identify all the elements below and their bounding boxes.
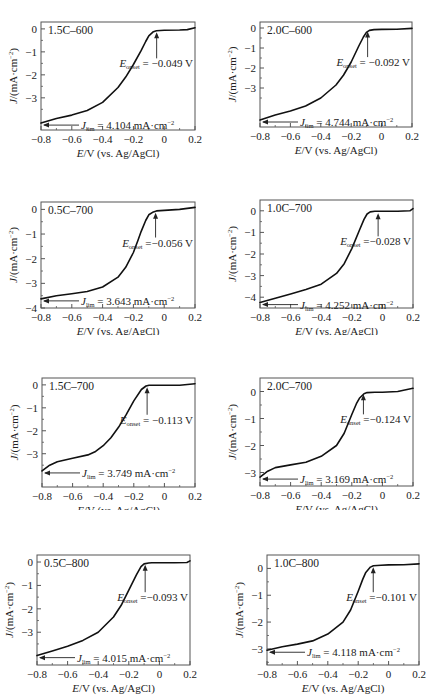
x-tick-label: −0.4 (311, 311, 331, 323)
onset-potential-label: Eonset =−0.101 V (345, 591, 417, 604)
x-tick-label: 0.2 (406, 489, 420, 501)
jlim-arrow (44, 470, 80, 475)
y-tick-label: −1 (21, 579, 33, 591)
onset-arrow (145, 387, 150, 414)
y-tick-label: −3 (251, 643, 263, 655)
y-tick-label: 0 (33, 379, 39, 391)
x-axis-label: E/V (vs. Ag/AgCl) (71, 682, 155, 695)
onset-arrow (361, 394, 366, 414)
y-tick-label: 0 (32, 203, 38, 215)
y-tick-label: −4 (25, 302, 37, 314)
x-tick-label: −0.8 (250, 130, 270, 142)
x-tick-label: −0.6 (62, 311, 82, 323)
x-tick-label: 0.2 (188, 133, 202, 145)
limiting-current-label: Jlim = 3.749 mA·cm−2 (82, 467, 175, 480)
onset-arrow (143, 565, 148, 592)
limiting-current-label: Jlim = 3.169 mA·cm−2 (300, 473, 393, 486)
x-tick-label: −0.2 (342, 311, 362, 323)
x-tick-label: 0.2 (183, 668, 197, 680)
x-tick-label: −0.2 (123, 133, 143, 145)
y-tick-label: −3 (25, 92, 37, 104)
plot-svg: −0.8−0.6−0.4−0.200.20−1−2−32.0C–700Eonse… (219, 340, 438, 510)
lsv-curve (260, 388, 413, 477)
onset-potential-label: Eonset = −0.049 V (118, 57, 193, 70)
y-axis-label: J/(mA·cm−2) (226, 404, 239, 460)
panel-label: 1.5C–700 (49, 380, 94, 392)
lsv-panel-1-0c-800: −0.8−0.6−0.4−0.200.20−1−2−31.0C–800Eonse… (219, 520, 438, 695)
x-tick-label: −0.8 (257, 668, 277, 680)
x-tick-label: −0.2 (119, 668, 139, 680)
y-tick-label: −1 (244, 42, 256, 54)
x-tick-label: −0.2 (348, 668, 368, 680)
limiting-current-label: Jlim = 4.104 mA·cm−2 (81, 119, 174, 132)
x-tick-label: 0.2 (188, 311, 202, 323)
lsv-panel-1-0c-700: −0.8−0.6−0.4−0.200.20−1−2−3−41.0C–700Eon… (219, 170, 438, 335)
x-tick-label: −0.2 (342, 489, 362, 501)
x-tick-label: 0 (161, 133, 167, 145)
x-tick-label: −0.6 (58, 668, 78, 680)
lsv-curve (267, 564, 419, 650)
lsv-curve (41, 207, 195, 299)
panel-label: 2.0C–700 (267, 380, 312, 392)
y-tick-label: 0 (28, 556, 34, 568)
x-tick-label: −0.4 (93, 311, 113, 323)
x-tick-label: −0.2 (341, 130, 361, 142)
y-tick-label: −3 (21, 626, 33, 638)
x-tick-label: 0 (380, 311, 386, 323)
x-tick-label: 0 (380, 489, 386, 501)
x-tick-label: −0.4 (318, 668, 338, 680)
jlim-arrow (43, 298, 79, 303)
lsv-panel-2-0c-600: −0.8−0.6−0.4−0.200.20−1−2−32.0C–600Eonse… (219, 0, 438, 165)
plot-svg: −0.8−0.6−0.4−0.200.20−1−2−31.5C–600Eonse… (0, 0, 220, 165)
plot-svg: −0.8−0.6−0.4−0.200.20−1−2−31.0C–800Eonse… (219, 520, 438, 695)
y-tick-label: −1 (244, 413, 256, 425)
x-tick-label: −0.6 (280, 130, 300, 142)
x-tick-label: −0.8 (250, 311, 270, 323)
y-tick-label: −3 (244, 82, 256, 94)
y-tick-label: 0 (258, 562, 264, 574)
y-axis-label: J/(mA·cm−2) (7, 227, 20, 283)
y-tick-label: −1 (26, 402, 38, 414)
x-axis-label: E/V (vs. Ag/AgCl) (76, 147, 160, 160)
plot-frame (260, 378, 413, 486)
jlim-arrow (43, 123, 79, 128)
lsv-curve (42, 384, 195, 471)
lsv-panel-0-5c-800: −0.8−0.6−0.4−0.200.20−1−2−30.5C–800Eonse… (0, 520, 220, 695)
jlim-arrow (269, 650, 305, 655)
onset-potential-label: Eonset =−0.056 V (121, 237, 193, 250)
x-tick-label: 0 (157, 668, 163, 680)
x-tick-label: 0 (379, 130, 385, 142)
x-tick-label: −0.4 (93, 490, 113, 502)
limiting-current-label: Jlim = 3.643 mA·cm−2 (81, 295, 174, 308)
x-tick-label: −0.6 (287, 668, 307, 680)
y-tick-label: −2 (251, 616, 263, 628)
x-tick-label: −0.6 (62, 133, 82, 145)
x-axis-label: E/V (vs. Ag/AgCl) (76, 325, 160, 335)
lsv-panel-1-5c-700: −0.8−0.6−0.4−0.200.20−1−2−31.5C–700Eonse… (0, 340, 220, 510)
y-axis-label: J/(mA·cm−2) (3, 582, 16, 638)
y-tick-label: −2 (25, 69, 37, 81)
panel-label: 1.0C–700 (267, 202, 312, 214)
x-tick-label: 0.2 (412, 668, 426, 680)
x-tick-label: −0.6 (281, 489, 301, 501)
limiting-current-label: Jlim = 4.744 mA·cm−2 (300, 116, 393, 129)
y-tick-label: −2 (244, 62, 256, 74)
plot-svg: −0.8−0.6−0.4−0.200.20−1−2−30.5C–800Eonse… (0, 520, 220, 695)
plot-svg: −0.8−0.6−0.4−0.200.20−1−2−3−40.5C–700Eon… (0, 170, 220, 335)
y-tick-label: 0 (251, 22, 257, 34)
onset-potential-label: Eonset =−0.124 V (339, 413, 411, 426)
plot-svg: −0.8−0.6−0.4−0.200.20−1−2−3−41.0C–700Eon… (219, 170, 438, 335)
x-tick-label: −0.8 (250, 489, 270, 501)
x-axis-label: E/V (vs. Ag/AgCl) (294, 144, 378, 157)
limiting-current-label: Jlim = 4.015 mA·cm−2 (77, 652, 170, 665)
plot-frame (260, 200, 413, 308)
plot-frame (260, 22, 412, 127)
y-tick-label: −1 (251, 589, 263, 601)
lsv-curve (260, 28, 412, 120)
y-tick-label: −3 (25, 277, 37, 289)
lsv-panel-0-5c-700: −0.8−0.6−0.4−0.200.20−1−2−3−40.5C–700Eon… (0, 170, 220, 335)
x-tick-label: −0.4 (311, 489, 331, 501)
y-tick-label: 0 (251, 205, 257, 217)
x-tick-label: 0 (386, 668, 392, 680)
x-tick-label: −0.4 (311, 130, 331, 142)
